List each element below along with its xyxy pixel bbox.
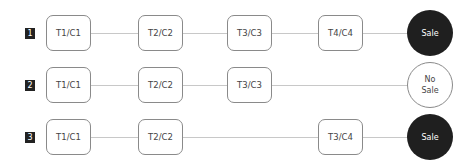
touchpoint-node: T3/C4 bbox=[318, 119, 363, 155]
path-row-2: 2 T1/C1 T2/C2 T3/C3 No Sale bbox=[0, 60, 475, 110]
touchpoint-node: T2/C2 bbox=[138, 15, 183, 51]
path-row-3: 3 T1/C1 T2/C2 T3/C4 Sale bbox=[0, 112, 475, 162]
outcome-sale-node: Sale bbox=[407, 10, 453, 56]
outcome-label-line2: Sale bbox=[421, 86, 438, 95]
outcome-label: Sale bbox=[421, 132, 438, 143]
row-number-badge: 2 bbox=[25, 80, 35, 91]
touchpoint-node: T2/C2 bbox=[138, 119, 183, 155]
touchpoint-node: T1/C1 bbox=[46, 119, 91, 155]
row-number-badge: 1 bbox=[25, 28, 35, 39]
touchpoint-node: T2/C2 bbox=[138, 67, 183, 103]
touchpoint-node: T4/C4 bbox=[318, 15, 363, 51]
outcome-label-line1: No bbox=[425, 75, 436, 84]
outcome-label: Sale bbox=[421, 28, 438, 39]
outcome-label: No Sale bbox=[421, 74, 438, 96]
touchpoint-node: T3/C3 bbox=[227, 15, 272, 51]
outcome-sale-node: Sale bbox=[407, 114, 453, 160]
touchpoint-node: T3/C3 bbox=[227, 67, 272, 103]
touchpoint-node: T1/C1 bbox=[46, 15, 91, 51]
outcome-no-sale-node: No Sale bbox=[407, 62, 453, 108]
path-row-1: 1 T1/C1 T2/C2 T3/C3 T4/C4 Sale bbox=[0, 8, 475, 58]
touchpoint-node: T1/C1 bbox=[46, 67, 91, 103]
row-number-badge: 3 bbox=[25, 132, 35, 143]
